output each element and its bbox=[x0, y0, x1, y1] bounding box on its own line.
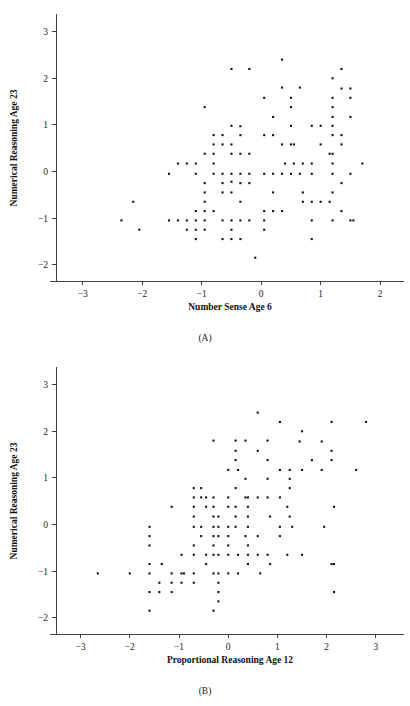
data-point bbox=[267, 478, 269, 480]
data-point bbox=[331, 459, 333, 461]
data-point bbox=[217, 572, 219, 574]
data-point bbox=[193, 582, 195, 584]
data-point bbox=[311, 238, 313, 240]
plot-a-datapoints bbox=[120, 59, 363, 259]
data-point bbox=[230, 238, 232, 240]
data-point bbox=[279, 496, 281, 498]
data-point bbox=[254, 257, 256, 259]
data-point bbox=[263, 173, 265, 175]
data-point bbox=[200, 496, 202, 498]
data-point bbox=[272, 210, 274, 212]
data-point bbox=[221, 219, 223, 221]
data-point bbox=[340, 182, 342, 184]
data-point bbox=[171, 582, 173, 584]
data-point bbox=[321, 469, 323, 471]
data-point bbox=[193, 544, 195, 546]
data-point bbox=[340, 210, 342, 212]
data-point bbox=[237, 554, 239, 556]
y-tick-label: −2 bbox=[38, 613, 48, 623]
plot-b-x-ticks: −3−2−10123 bbox=[76, 634, 379, 652]
data-point bbox=[148, 535, 150, 537]
data-point bbox=[193, 526, 195, 528]
data-point bbox=[221, 238, 223, 240]
scatter-plot-b: −2−10123 −3−2−10123 Proportional Reasoni… bbox=[0, 353, 410, 706]
x-tick-label: −3 bbox=[76, 642, 86, 652]
data-point bbox=[221, 191, 223, 193]
data-point bbox=[332, 163, 334, 165]
data-point bbox=[204, 182, 206, 184]
plot-a-caption: (A) bbox=[198, 333, 211, 344]
data-point bbox=[227, 496, 229, 498]
data-point bbox=[290, 143, 292, 145]
data-point bbox=[289, 516, 291, 518]
data-point bbox=[217, 516, 219, 518]
data-point bbox=[279, 469, 281, 471]
data-point bbox=[349, 97, 351, 99]
data-point bbox=[332, 173, 334, 175]
data-point bbox=[302, 201, 304, 203]
data-point bbox=[230, 125, 232, 127]
data-point bbox=[332, 134, 334, 136]
data-point bbox=[177, 163, 179, 165]
data-point bbox=[352, 219, 354, 221]
data-point bbox=[161, 563, 163, 565]
data-point bbox=[311, 459, 313, 461]
data-point bbox=[301, 554, 303, 556]
data-point bbox=[323, 526, 325, 528]
plot-b-axes bbox=[50, 367, 404, 634]
data-point bbox=[221, 143, 223, 145]
data-point bbox=[340, 143, 342, 145]
y-tick-label: 2 bbox=[43, 427, 48, 437]
data-point bbox=[129, 572, 131, 574]
data-point bbox=[286, 506, 288, 508]
figure-panel-b: −2−10123 −3−2−10123 Proportional Reasoni… bbox=[0, 353, 410, 706]
data-point bbox=[263, 134, 265, 136]
data-point bbox=[281, 59, 283, 61]
x-tick-label: −2 bbox=[137, 289, 147, 299]
data-point bbox=[332, 77, 334, 79]
data-point bbox=[320, 125, 322, 127]
data-point bbox=[349, 87, 351, 89]
data-point bbox=[279, 535, 281, 537]
data-point bbox=[244, 496, 246, 498]
data-point bbox=[259, 572, 261, 574]
data-point bbox=[148, 544, 150, 546]
data-point bbox=[257, 412, 259, 414]
data-point bbox=[212, 610, 214, 612]
data-point bbox=[332, 116, 334, 118]
data-point bbox=[289, 469, 291, 471]
data-point bbox=[286, 554, 288, 556]
data-point bbox=[195, 219, 197, 221]
data-point bbox=[200, 535, 202, 537]
data-point bbox=[230, 68, 232, 70]
data-point bbox=[263, 210, 265, 212]
data-point bbox=[302, 163, 304, 165]
data-point bbox=[217, 526, 219, 528]
data-point bbox=[204, 106, 206, 108]
data-point bbox=[333, 506, 335, 508]
data-point bbox=[290, 97, 292, 99]
data-point bbox=[212, 516, 214, 518]
data-point bbox=[361, 163, 363, 165]
plot-b-caption: (B) bbox=[199, 686, 212, 697]
data-point bbox=[227, 506, 229, 508]
data-point bbox=[212, 526, 214, 528]
data-point bbox=[239, 125, 241, 127]
data-point bbox=[299, 440, 301, 442]
data-point bbox=[180, 554, 182, 556]
plot-a-x-ticks: −3−2−1012 bbox=[78, 281, 383, 299]
data-point bbox=[205, 563, 207, 565]
data-point bbox=[248, 182, 250, 184]
data-point bbox=[349, 116, 351, 118]
y-tick-label: 1 bbox=[43, 473, 48, 483]
data-point bbox=[311, 219, 313, 221]
data-point bbox=[204, 210, 206, 212]
data-point bbox=[168, 219, 170, 221]
data-point bbox=[279, 526, 281, 528]
data-point bbox=[186, 219, 188, 221]
data-point bbox=[235, 487, 237, 489]
x-tick-label: 0 bbox=[226, 642, 231, 652]
data-point bbox=[267, 459, 269, 461]
data-point bbox=[221, 182, 223, 184]
data-point bbox=[248, 173, 250, 175]
